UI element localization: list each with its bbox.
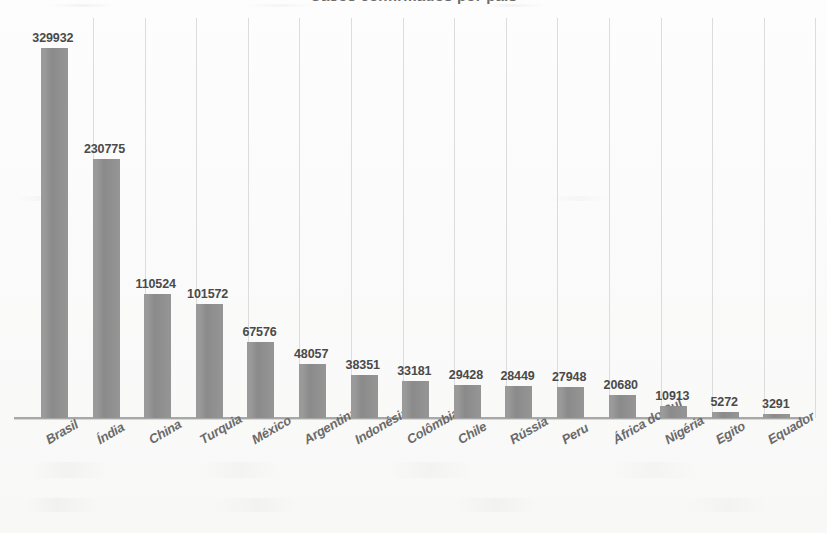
bar[interactable] bbox=[247, 342, 274, 418]
bar[interactable] bbox=[763, 414, 790, 418]
bar-value-label: 27948 bbox=[552, 370, 586, 384]
bar[interactable] bbox=[299, 364, 326, 418]
gridline bbox=[557, 18, 558, 418]
bar-value-label: 48057 bbox=[294, 347, 328, 361]
gridline bbox=[712, 18, 713, 418]
x-axis-category-label: Egito bbox=[713, 418, 748, 447]
gridline bbox=[403, 18, 404, 418]
gridline bbox=[764, 18, 765, 418]
bar[interactable] bbox=[454, 385, 481, 418]
bar[interactable] bbox=[660, 406, 687, 418]
x-axis-category-label: Índia bbox=[94, 419, 127, 447]
x-axis-category-label: China bbox=[146, 416, 184, 447]
bar[interactable] bbox=[93, 159, 120, 418]
bar-value-label: 33181 bbox=[397, 364, 431, 378]
bar[interactable] bbox=[144, 294, 171, 418]
bar[interactable] bbox=[402, 381, 429, 418]
bar-value-label: 29428 bbox=[449, 368, 483, 382]
bar[interactable] bbox=[712, 412, 739, 418]
x-axis-category-label: Peru bbox=[559, 420, 591, 447]
bar[interactable] bbox=[41, 48, 68, 418]
x-axis-category-label: Brasil bbox=[43, 417, 81, 447]
bar-value-label: 101572 bbox=[187, 287, 228, 301]
gridline bbox=[661, 18, 662, 418]
bar[interactable] bbox=[196, 304, 223, 418]
bar-value-label: 38351 bbox=[346, 358, 380, 372]
bar[interactable] bbox=[505, 386, 532, 418]
gridline bbox=[454, 18, 455, 418]
gridline bbox=[506, 18, 507, 418]
x-axis-category-label: Chile bbox=[455, 419, 489, 447]
bar-value-label: 10913 bbox=[655, 389, 689, 403]
bar-value-label: 5272 bbox=[711, 395, 738, 409]
bar-value-label: 230775 bbox=[84, 142, 125, 156]
bar-value-label: 110524 bbox=[136, 277, 176, 291]
bar-value-label: 3291 bbox=[762, 397, 789, 411]
bar[interactable] bbox=[609, 395, 636, 418]
bar-chart: 329932Brasil230775Índia110524China101572… bbox=[0, 0, 827, 533]
bar-value-label: 28449 bbox=[500, 369, 534, 383]
bar-value-label: 20680 bbox=[604, 378, 638, 392]
bar-value-label: 67576 bbox=[242, 325, 276, 339]
gridline bbox=[609, 18, 610, 418]
bar-value-label: 329932 bbox=[32, 31, 73, 45]
bar[interactable] bbox=[351, 375, 378, 418]
plot-area bbox=[14, 18, 810, 418]
gridline bbox=[815, 18, 816, 418]
bar[interactable] bbox=[557, 387, 584, 418]
